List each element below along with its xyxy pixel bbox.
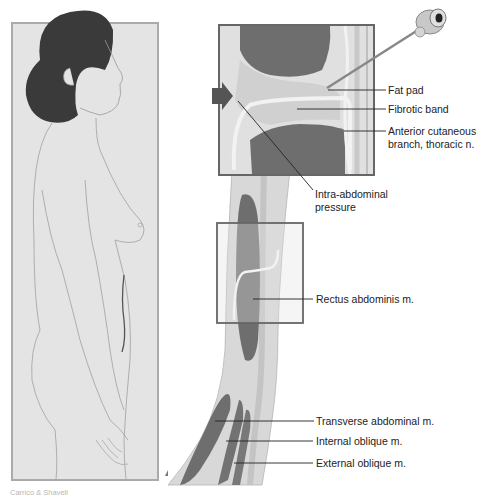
abdominal-wall-cross-section [168,9,446,485]
label-anterior-cutaneous-1: Anterior cutaneous [388,125,476,137]
label-rectus-abdominis: Rectus abdominis m. [316,293,414,305]
female-figure-panel [12,10,168,480]
label-internal-oblique: Internal oblique m. [316,435,402,447]
syringe-hub-icon [415,9,446,37]
label-intra-abdominal-2: pressure [315,201,356,213]
label-fat-pad: Fat pad [388,84,424,96]
label-transverse-abdominal: Transverse abdominal m. [316,415,434,427]
label-fibrotic-band: Fibrotic band [388,103,449,115]
anatomy-figure: Fat pad Fibrotic band Anterior cutaneous… [0,0,483,501]
credit-text: Carrico & Shavell [10,488,68,497]
label-external-oblique: External oblique m. [316,457,406,469]
label-anterior-cutaneous-2: branch, thoracic n. [388,138,474,150]
label-intra-abdominal-1: Intra-abdominal [315,188,388,200]
